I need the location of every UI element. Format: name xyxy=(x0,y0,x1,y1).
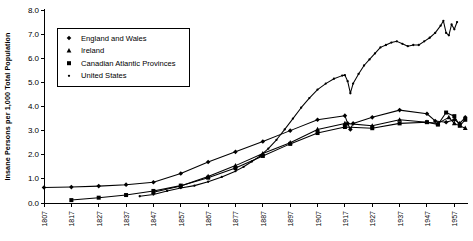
line-chart: 0.01.02.03.04.05.06.07.08.01807181718271… xyxy=(0,0,473,241)
y-axis-tick-label: 0.0 xyxy=(28,199,40,208)
marker-square xyxy=(370,126,374,130)
marker-diamond xyxy=(124,182,129,187)
marker-dot xyxy=(341,74,343,76)
marker-triangle xyxy=(446,115,451,119)
marker-dot xyxy=(68,75,70,77)
marker-dot xyxy=(456,21,458,23)
marker-dot xyxy=(349,92,351,94)
marker-diamond xyxy=(351,121,356,126)
marker-square xyxy=(343,125,347,129)
x-axis-tick-label: 1907 xyxy=(315,211,322,227)
marker-dot xyxy=(363,64,365,66)
x-axis-tick-label: 1847 xyxy=(150,211,157,227)
marker-dot xyxy=(407,45,409,47)
marker-diamond xyxy=(233,150,238,155)
marker-square xyxy=(436,123,440,127)
marker-dot xyxy=(284,128,286,130)
marker-square xyxy=(69,198,73,202)
y-axis-title: Insane Persons per 1,000 Total Populatio… xyxy=(3,32,12,180)
marker-dot xyxy=(374,52,376,54)
marker-dot xyxy=(418,44,420,46)
marker-diamond xyxy=(178,171,183,176)
x-axis-tick-label: 1837 xyxy=(123,211,130,227)
marker-diamond xyxy=(370,115,375,120)
marker-square xyxy=(233,166,237,170)
marker-dot xyxy=(275,139,277,141)
y-axis-tick-label: 2.0 xyxy=(28,150,40,159)
marker-dot xyxy=(234,170,236,172)
marker-dot xyxy=(450,23,452,25)
legend-item-label: Ireland xyxy=(81,46,104,55)
marker-dot xyxy=(401,43,403,45)
marker-square xyxy=(458,124,462,128)
marker-triangle xyxy=(397,117,402,121)
marker-dot xyxy=(429,37,431,39)
marker-dot xyxy=(333,78,335,80)
marker-diamond xyxy=(444,120,449,125)
marker-dot xyxy=(385,44,387,46)
x-axis-tick-label: 1817 xyxy=(68,211,75,227)
marker-square xyxy=(316,131,320,135)
marker-dot xyxy=(267,148,269,150)
y-axis-tick-label: 3.0 xyxy=(28,126,40,135)
y-axis-tick-label: 6.0 xyxy=(28,54,40,63)
x-axis-tick-label: 1947 xyxy=(424,211,431,227)
x-axis-tick-label: 1827 xyxy=(96,211,103,227)
marker-diamond xyxy=(261,139,266,144)
marker-diamond xyxy=(288,128,293,133)
marker-diamond xyxy=(397,108,402,113)
marker-square xyxy=(124,193,128,197)
legend-item-label: England and Wales xyxy=(81,34,147,43)
marker-square xyxy=(444,111,448,115)
y-axis-tick-label: 7.0 xyxy=(28,30,40,39)
marker-dot xyxy=(396,40,398,42)
marker-diamond xyxy=(96,184,101,189)
marker-dot xyxy=(445,32,447,34)
marker-diamond xyxy=(151,180,156,185)
marker-dot xyxy=(368,58,370,60)
marker-dot xyxy=(180,187,182,189)
marker-dot xyxy=(448,34,450,36)
legend-item-label: Canadian Atlantic Provinces xyxy=(81,59,176,68)
marker-dot xyxy=(325,82,327,84)
marker-dot xyxy=(207,181,209,183)
marker-dot xyxy=(166,190,168,192)
legend: England and WalesIrelandCanadian Atlanti… xyxy=(57,28,189,86)
marker-dot xyxy=(308,97,310,99)
marker-dot xyxy=(243,166,245,168)
marker-square xyxy=(97,196,101,200)
marker-square xyxy=(463,118,467,122)
marker-dot xyxy=(221,176,223,178)
marker-diamond xyxy=(206,160,211,165)
x-axis-tick-label: 1937 xyxy=(397,211,404,227)
marker-square xyxy=(288,142,292,146)
y-axis-tick-label: 4.0 xyxy=(28,102,40,111)
legend-item-label: United States xyxy=(81,71,127,80)
marker-dot xyxy=(379,46,381,48)
marker-dot xyxy=(152,193,154,195)
x-axis-tick-label: 1877 xyxy=(232,211,239,227)
marker-dot xyxy=(344,74,346,76)
marker-dot xyxy=(439,25,441,27)
marker-dot xyxy=(316,88,318,90)
x-axis-tick-label: 1957 xyxy=(451,211,458,227)
marker-dot xyxy=(352,82,354,84)
x-axis-tick-label: 1867 xyxy=(205,211,212,227)
marker-square xyxy=(398,121,402,125)
marker-dot xyxy=(193,184,195,186)
x-axis-tick-label: 1927 xyxy=(369,211,376,227)
marker-square xyxy=(452,114,456,118)
x-axis-tick-label: 1857 xyxy=(178,211,185,227)
marker-dot xyxy=(292,117,294,119)
marker-dot xyxy=(423,40,425,42)
series-line xyxy=(153,117,465,192)
marker-dot xyxy=(412,44,414,46)
x-axis-tick-label: 1807 xyxy=(41,211,48,227)
marker-square xyxy=(67,61,71,65)
x-axis-tick-label: 1917 xyxy=(342,211,349,227)
marker-dot xyxy=(346,80,348,82)
marker-diamond xyxy=(42,185,47,190)
series-canadian-atlantic-provinces xyxy=(69,111,467,203)
marker-diamond xyxy=(315,117,320,122)
marker-dot xyxy=(390,41,392,43)
